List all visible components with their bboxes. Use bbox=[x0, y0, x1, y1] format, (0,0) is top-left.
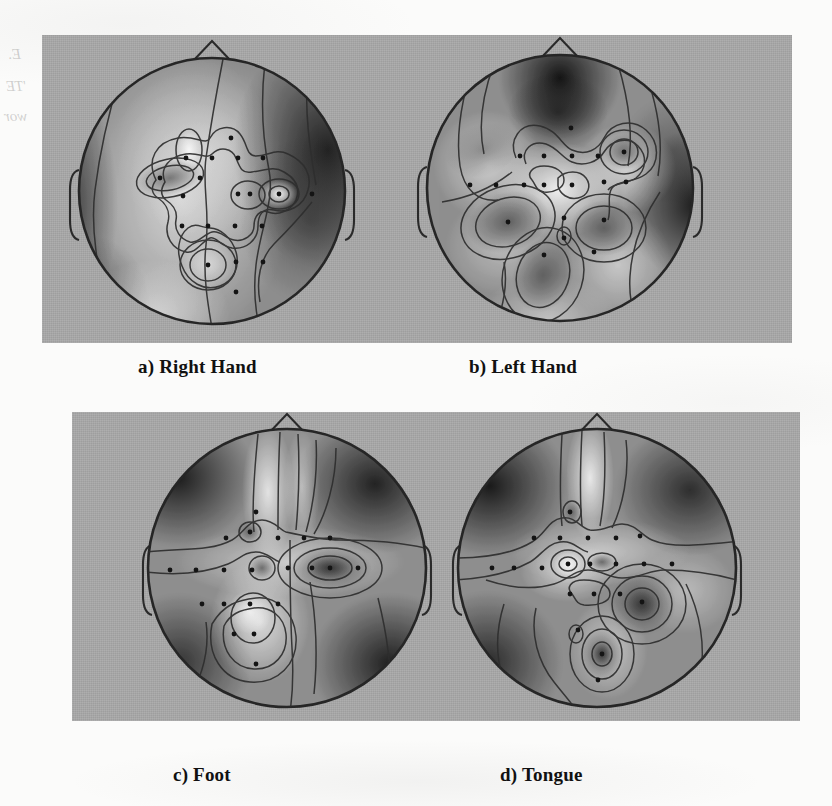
caption-left-hand: b) Left Hand bbox=[469, 356, 577, 378]
scalp-map-tongue bbox=[450, 412, 760, 732]
scalp-map-foot bbox=[140, 412, 450, 732]
bleed-through-line-2: 'TE bbox=[6, 78, 27, 95]
bleed-through-line-1: E. bbox=[8, 46, 21, 63]
scalp-map-left-hand bbox=[408, 30, 718, 350]
caption-right-hand: a) Right Hand bbox=[138, 356, 257, 378]
caption-tongue: d) Tongue bbox=[500, 764, 583, 786]
caption-foot: c) Foot bbox=[173, 764, 231, 786]
bleed-through-line-3: wor bbox=[4, 108, 27, 125]
scalp-map-right-hand bbox=[60, 30, 370, 350]
